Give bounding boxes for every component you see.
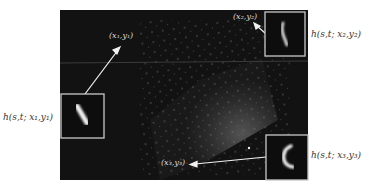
point-label-p3: (x₃,y₃): [161, 158, 185, 167]
point-label-p1: (x₁,y₁): [109, 31, 133, 40]
psf-label-p1: h(s,t; x₁,y₁): [3, 112, 53, 122]
isolated-star: [248, 147, 250, 149]
psf-label-p3: h(s,t; x₃,y₃): [311, 150, 361, 160]
point-label-p2: (x₂,y₂): [233, 12, 257, 21]
psf-inset-p3: [266, 135, 308, 180]
psf-inset-p1: [61, 94, 104, 138]
psf-inset-p2: [265, 12, 305, 56]
psf-label-p2: h(s,t; x₂,y₂): [311, 29, 361, 39]
